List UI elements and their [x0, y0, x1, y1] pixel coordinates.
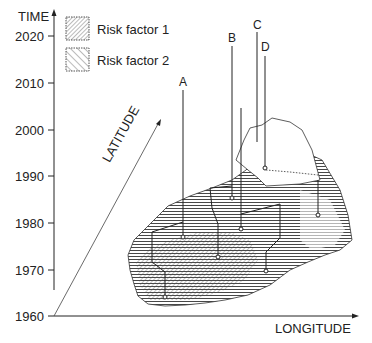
legend-label-risk-factor-1: Risk factor 1	[97, 23, 169, 36]
tick-1990: 1990	[0, 170, 44, 183]
longitude-axis-label: LONGITUDE	[275, 322, 351, 335]
point-label-a: A	[179, 76, 187, 88]
time-axis-label: TIME	[18, 10, 49, 23]
legend-label-risk-factor-2: Risk factor 2	[97, 54, 169, 67]
tick-2000: 2000	[0, 124, 44, 137]
time-axis	[48, 9, 57, 316]
tick-2010: 2010	[0, 77, 44, 90]
point-label-d: D	[261, 41, 270, 53]
point-label-b: B	[228, 32, 236, 44]
tick-1960: 1960	[0, 310, 44, 323]
legend-swatch-risk-factor-1	[66, 17, 89, 40]
tick-1970: 1970	[0, 264, 44, 277]
space-time-diagram	[0, 0, 372, 343]
tick-1980: 1980	[0, 217, 44, 230]
point-label-c: C	[253, 19, 262, 31]
legend-swatch-risk-factor-2	[66, 48, 89, 71]
tick-2020: 2020	[0, 30, 44, 43]
longitude-axis	[54, 314, 359, 319]
